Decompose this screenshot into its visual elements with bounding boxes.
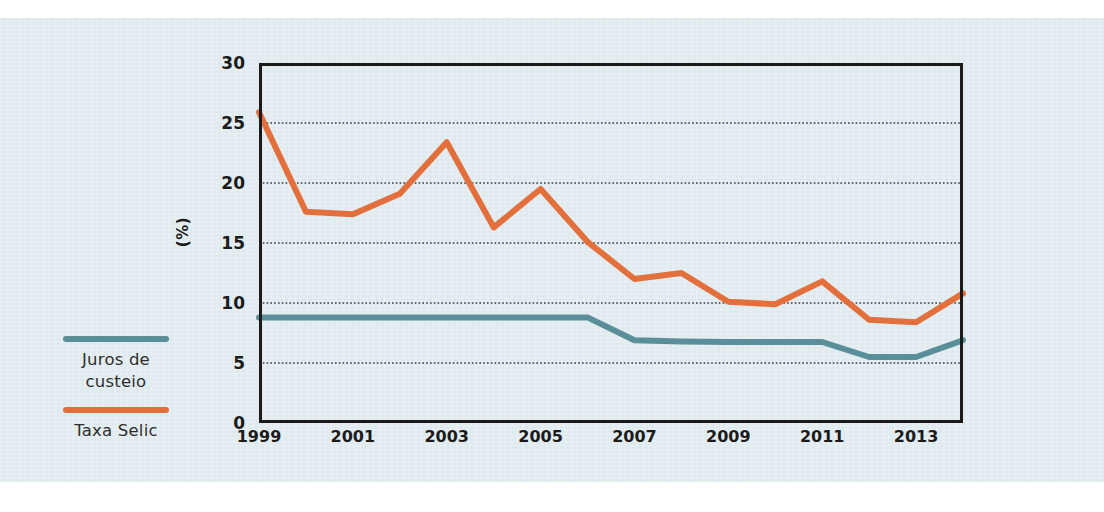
scanned-paper-panel: Juros de custeio Taxa Selic 302520151050… <box>0 18 1104 482</box>
x-axis-tick-2007: 2007 <box>612 427 657 446</box>
y-axis-tick-10: 10 <box>201 293 245 313</box>
line-chart: 302520151050 (%) 19992001200320052007200… <box>0 18 1104 482</box>
y-axis-tick-30: 30 <box>201 53 245 73</box>
y-axis-tick-15: 15 <box>201 233 245 253</box>
plot-area-border <box>259 63 963 423</box>
x-axis-tick-labels: 19992001200320052007200920112013 <box>259 427 963 461</box>
page-top-margin <box>0 0 1104 18</box>
x-axis-tick-2005: 2005 <box>518 427 563 446</box>
y-axis-tick-20: 20 <box>201 173 245 193</box>
x-axis-tick-1999: 1999 <box>237 427 282 446</box>
y-axis-tick-labels: 302520151050 <box>197 18 245 482</box>
x-axis-tick-2003: 2003 <box>424 427 469 446</box>
y-axis-tick-5: 5 <box>201 353 245 373</box>
chart-page: Juros de custeio Taxa Selic 302520151050… <box>0 0 1104 512</box>
y-axis-tick-25: 25 <box>201 113 245 133</box>
page-bottom-margin <box>0 482 1104 512</box>
y-axis-title: (%) <box>174 217 192 247</box>
x-axis-tick-2001: 2001 <box>331 427 376 446</box>
x-axis-tick-2009: 2009 <box>706 427 751 446</box>
x-axis-tick-2013: 2013 <box>894 427 939 446</box>
x-axis-tick-2011: 2011 <box>800 427 845 446</box>
